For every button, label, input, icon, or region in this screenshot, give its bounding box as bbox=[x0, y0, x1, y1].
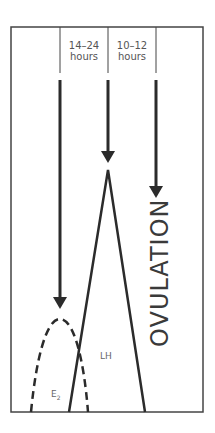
interval-1-unit: hours bbox=[62, 51, 106, 62]
ovulation-label: OVULATION bbox=[146, 198, 174, 347]
arrow-e2-peak bbox=[53, 80, 67, 309]
interval-2-value: 10–12 bbox=[110, 40, 154, 51]
interval-label-1: 14–24 hours bbox=[62, 40, 106, 62]
interval-2-unit: hours bbox=[110, 51, 154, 62]
lh-curve bbox=[69, 170, 145, 412]
e2-label-subscript: 2 bbox=[57, 394, 61, 401]
interval-1-value: 14–24 bbox=[62, 40, 106, 51]
arrow-ovulation bbox=[149, 80, 163, 198]
arrow-lh-peak bbox=[101, 80, 115, 163]
lh-label: LH bbox=[100, 351, 112, 361]
diagram-canvas bbox=[0, 0, 215, 433]
e2-label: E2 bbox=[51, 389, 61, 401]
interval-label-2: 10–12 hours bbox=[110, 40, 154, 62]
